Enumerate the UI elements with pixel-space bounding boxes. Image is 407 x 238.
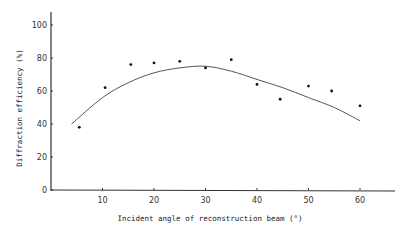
data-point — [359, 104, 362, 107]
x-axis-line — [51, 190, 395, 191]
data-point — [129, 63, 132, 66]
data-point — [279, 98, 282, 101]
fit-curve — [72, 66, 360, 124]
data-point — [307, 85, 310, 88]
data-point — [330, 90, 333, 93]
x-axis: 102030405060 — [51, 188, 395, 205]
y-tick-label: 60 — [37, 87, 47, 96]
x-axis-title: Incident angle of reconstruction beam (°… — [117, 214, 302, 223]
x-tick-label: 20 — [149, 196, 159, 205]
x-tick-label: 40 — [252, 196, 262, 205]
y-axis: 020406080100 — [32, 12, 53, 195]
y-tick-label: 0 — [42, 186, 47, 195]
y-axis-title: Diffraction efficiency (%) — [15, 49, 24, 166]
x-tick-label: 10 — [97, 196, 107, 205]
y-tick-label: 100 — [32, 21, 47, 30]
y-tick-label: 40 — [37, 120, 47, 129]
fit-curve-line — [72, 66, 360, 124]
data-point — [230, 58, 233, 61]
chart: 020406080100 102030405060 Incident angle… — [0, 0, 407, 238]
x-tick-label: 50 — [303, 196, 313, 205]
y-tick-label: 20 — [37, 153, 47, 162]
data-point — [104, 86, 107, 89]
y-tick-label: 80 — [37, 54, 47, 63]
data-point — [153, 62, 156, 65]
x-tick-label: 30 — [200, 196, 210, 205]
data-point — [256, 83, 259, 86]
data-point — [204, 67, 207, 70]
data-point — [178, 60, 181, 63]
x-tick-label: 60 — [355, 196, 365, 205]
data-point — [78, 126, 81, 129]
